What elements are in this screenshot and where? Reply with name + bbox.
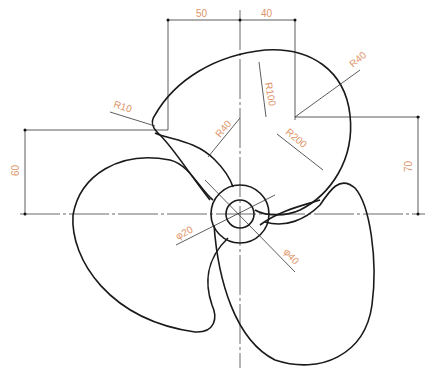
- dim-60: 60: [10, 164, 21, 176]
- dim-70: 70: [403, 160, 414, 172]
- blade-lower-right: [214, 183, 374, 365]
- dim-40: 40: [261, 8, 273, 19]
- dim-r40-left: R40: [213, 118, 234, 139]
- blade-top: [152, 50, 350, 215]
- dim-r100: R100: [263, 81, 278, 107]
- blade-left: [73, 158, 228, 332]
- r10-leader: [110, 112, 155, 126]
- dim-r40-right: R40: [347, 49, 368, 70]
- dim-r200: R200: [284, 126, 310, 150]
- phi20-leader: [176, 195, 275, 245]
- dim-50: 50: [196, 8, 208, 19]
- propeller-drawing: 50 40 60 70 R10 R40 R100 R40 R200 φ20 φ4…: [0, 0, 434, 380]
- dim-phi40: φ40: [282, 246, 302, 267]
- dim-r10: R10: [112, 98, 133, 114]
- r40-right-leader: [295, 70, 360, 117]
- dim-phi20: φ20: [174, 224, 195, 242]
